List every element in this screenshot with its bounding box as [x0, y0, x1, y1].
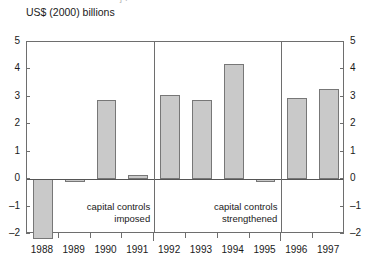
- x-tick-mark-2: [90, 233, 91, 238]
- cropped-text-strip: j r: [0, 0, 373, 5]
- bar-1990: [97, 100, 117, 180]
- y-tick-mark-right-0: [340, 178, 344, 179]
- x-tick-mark-3: [121, 233, 122, 238]
- y-tick-mark-left-5: [26, 41, 30, 42]
- y-tick-label-left-0: 0: [2, 173, 20, 183]
- y-axis-unit-label: US$ (2000) billions: [26, 6, 115, 18]
- x-tick-mark-6: [217, 233, 218, 238]
- bar-chart: j r US$ (2000) billions capital controls…: [0, 0, 373, 262]
- annotation-2: capital controls strengthened: [157, 201, 277, 224]
- y-tick-mark-right--2: [340, 233, 344, 234]
- y-tick-mark-left--1: [26, 206, 30, 207]
- y-tick-label-left-1: 1: [2, 146, 20, 156]
- x-tick-mark-8: [280, 233, 281, 241]
- bar-1992: [160, 95, 180, 179]
- bar-1994: [224, 64, 244, 179]
- y-tick-label-right--2: –2: [350, 228, 368, 238]
- y-tick-mark-right--1: [340, 206, 344, 207]
- y-tick-mark-left-1: [26, 151, 30, 152]
- separator-after-1995: [281, 42, 282, 232]
- y-tick-label-right-2: 2: [350, 118, 368, 128]
- y-tick-label-left--1: –1: [2, 201, 20, 211]
- y-tick-mark-right-1: [340, 151, 344, 152]
- y-tick-mark-right-2: [340, 123, 344, 124]
- y-tick-label-right-5: 5: [350, 36, 368, 46]
- bar-1993: [192, 100, 212, 179]
- x-tick-mark-7: [249, 233, 250, 238]
- zero-line: [27, 179, 343, 180]
- x-tick-mark-1: [58, 233, 59, 238]
- cropped-text: j r: [120, 0, 129, 3]
- y-tick-label-right-3: 3: [350, 91, 368, 101]
- y-tick-label-right--1: –1: [350, 201, 368, 211]
- x-tick-label-1997: 1997: [308, 244, 348, 255]
- plot-area: capital controls imposedcapital controls…: [26, 41, 344, 233]
- bar-1997: [319, 89, 339, 180]
- y-tick-label-right-0: 0: [350, 173, 368, 183]
- y-tick-label-left-4: 4: [2, 63, 20, 73]
- y-tick-label-left-2: 2: [2, 118, 20, 128]
- y-tick-label-left-5: 5: [2, 36, 20, 46]
- y-tick-mark-left-0: [26, 178, 30, 179]
- y-tick-mark-left-4: [26, 68, 30, 69]
- x-tick-mark-5: [185, 233, 186, 238]
- y-tick-label-right-1: 1: [350, 146, 368, 156]
- y-tick-mark-right-5: [340, 41, 344, 42]
- y-tick-label-left-3: 3: [2, 91, 20, 101]
- y-tick-label-right-4: 4: [350, 63, 368, 73]
- y-tick-mark-right-3: [340, 96, 344, 97]
- bar-1996: [287, 98, 307, 179]
- x-tick-mark-4: [153, 233, 154, 241]
- annotation-1: capital controls imposed: [30, 201, 150, 224]
- x-tick-mark-9: [312, 233, 313, 238]
- separator-after-1991: [154, 42, 155, 232]
- y-tick-mark-left--2: [26, 233, 30, 234]
- y-tick-mark-right-4: [340, 68, 344, 69]
- y-tick-mark-left-3: [26, 96, 30, 97]
- y-tick-mark-left-2: [26, 123, 30, 124]
- y-tick-label-left--2: –2: [2, 228, 20, 238]
